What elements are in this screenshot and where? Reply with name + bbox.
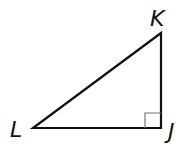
triangle-jkl	[33, 33, 161, 128]
vertex-label-l: L	[10, 117, 22, 142]
vertex-label-j: J	[164, 119, 175, 144]
right-angle-marker	[145, 113, 161, 128]
vertex-label-k: K	[150, 6, 166, 31]
triangle-diagram: K L J	[0, 0, 192, 154]
